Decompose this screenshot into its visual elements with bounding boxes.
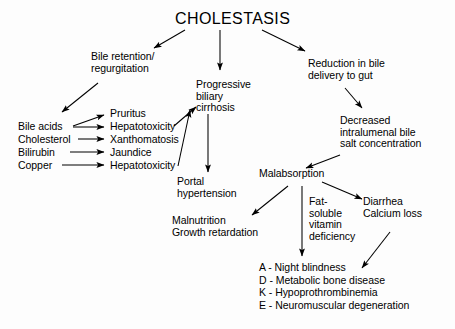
cholestasis-diagram: CHOLESTASIS Bile retention/ regurgitatio…: [0, 0, 455, 329]
node-fat-soluble-vitamin-deficiency: Fat- soluble vitamin deficiency: [309, 196, 355, 242]
diagram-title: CHOLESTASIS: [175, 10, 290, 28]
effect-pruritus: Pruritus: [110, 108, 146, 120]
arrow-cholestasis-to-bile-retention: [154, 30, 185, 48]
node-progressive-biliary-cirrhosis: Progressive biliary cirrhosis: [196, 79, 251, 114]
node-diarrhea-calcium-loss: Diarrhea Calcium loss: [363, 196, 422, 219]
node-portal-hypertension: Portal hypertension: [177, 176, 237, 199]
substance-copper: Copper: [18, 160, 52, 172]
node-malabsorption: Malabsorption: [259, 168, 324, 180]
substance-bile-acids: Bile acids: [18, 121, 62, 133]
effect-xanthomatosis: Xanthomatosis: [110, 134, 179, 146]
arrow-hepatotoxicity-lower-to-cirrhosis: [178, 110, 190, 166]
arrow-reduction-to-decreased-salt: [345, 88, 362, 108]
effect-hepatotoxicity-copper: Hepatotoxicity: [110, 160, 175, 172]
substance-cholesterol: Cholesterol: [18, 134, 71, 146]
node-decreased-intralumenal-bile-salt: Decreased intralumenal bile salt concent…: [340, 115, 421, 150]
arrow-bile-acids-to-pruritus: [73, 115, 104, 126]
substance-bilirubin: Bilirubin: [18, 147, 55, 159]
effect-hepatotoxicity-bile-acids: Hepatotoxicity: [110, 121, 175, 133]
node-bile-retention: Bile retention/ regurgitation: [91, 51, 154, 74]
node-reduction-in-bile-delivery: Reduction in bile delivery to gut: [308, 58, 385, 81]
arrow-bile-retention-to-bile-acids: [62, 83, 98, 112]
arrow-malabsorption-to-malnutrition: [252, 186, 288, 215]
node-malnutrition-growth-retardation: Malnutrition Growth retardation: [172, 215, 258, 238]
vitamin-deficiency-list: A - Night blindness D - Metabolic bone d…: [259, 261, 409, 311]
arrow-cholestasis-to-reduction: [262, 30, 305, 51]
arrow-hepatotoxicity-upper-to-cirrhosis: [174, 107, 196, 126]
effect-jaundice: Jaundice: [110, 147, 152, 159]
